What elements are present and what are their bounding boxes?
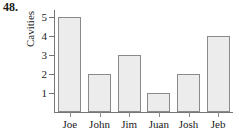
y-axis-title: Cavities (24, 34, 37, 47)
bar-jeb (207, 36, 230, 112)
x-tick-label-juan: Juan (149, 118, 169, 130)
bar-jim (118, 55, 141, 112)
x-tick-mark (218, 112, 219, 117)
x-tick-mark (159, 112, 160, 117)
y-tick-label: 3 (42, 50, 48, 61)
x-axis-line (54, 112, 233, 113)
bar-series (55, 10, 233, 112)
y-tick-label: 5 (42, 12, 48, 23)
x-tick-label-josh: Josh (179, 118, 199, 130)
problem-number-label: 48. (3, 1, 18, 14)
x-tick-mark (129, 112, 130, 117)
bar-john (88, 74, 111, 112)
y-tick-label: 4 (42, 31, 48, 42)
x-tick-mark (70, 112, 71, 117)
y-tick-label: 1 (42, 88, 48, 99)
figure-48: 48. Cavities 12345 JoeJohnJimJuanJoshJeb (0, 0, 239, 130)
y-tick-label: 2 (42, 69, 48, 80)
x-tick-label-jim: Jim (121, 118, 137, 130)
bar-juan (147, 93, 170, 112)
x-tick-mark (189, 112, 190, 117)
x-tick-mark (100, 112, 101, 117)
x-tick-label-joe: Joe (62, 118, 77, 130)
bar-joe (58, 17, 81, 112)
bar-josh (177, 74, 200, 112)
x-tick-label-jeb: Jeb (211, 118, 226, 130)
x-tick-label-john: John (89, 118, 110, 130)
bar-chart-plot-area: 12345 JoeJohnJimJuanJoshJeb (54, 10, 233, 112)
